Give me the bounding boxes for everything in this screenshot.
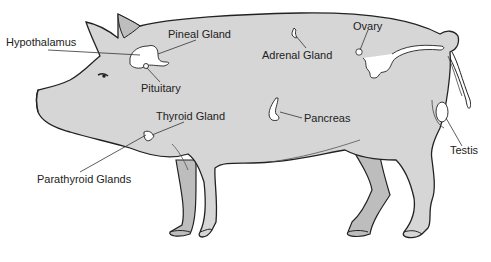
label-adrenal-gland: Adrenal Gland <box>262 49 332 61</box>
tail <box>448 52 471 108</box>
label-parathyroid-glands: Parathyroid Glands <box>37 173 132 185</box>
label-pancreas: Pancreas <box>304 112 351 124</box>
testis-leader <box>446 118 462 146</box>
pig-endocrine-diagram: Hypothalamus Pineal Gland Pituitary Thyr… <box>0 0 491 262</box>
label-pineal-gland: Pineal Gland <box>168 28 231 40</box>
label-testis: Testis <box>450 144 479 156</box>
pig-body <box>37 13 459 238</box>
pituitary-shape <box>144 64 149 69</box>
label-thyroid-gland: Thyroid Gland <box>156 110 225 122</box>
far-front-leg <box>170 160 196 236</box>
label-ovary: Ovary <box>353 20 383 32</box>
label-pituitary: Pituitary <box>141 82 181 94</box>
label-hypothalamus: Hypothalamus <box>6 36 77 48</box>
